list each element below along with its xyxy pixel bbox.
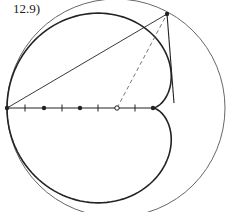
solid-point	[151, 106, 155, 110]
solid-point	[5, 106, 9, 110]
solid-point	[78, 106, 82, 110]
cardioid-diagram	[0, 0, 229, 212]
figure-label: 12.9)	[13, 1, 40, 17]
chord-line	[7, 14, 167, 108]
hollow-center-point	[115, 106, 119, 110]
solid-point	[42, 106, 46, 110]
dashed-radius-line	[117, 14, 167, 108]
solid-point	[165, 12, 169, 16]
